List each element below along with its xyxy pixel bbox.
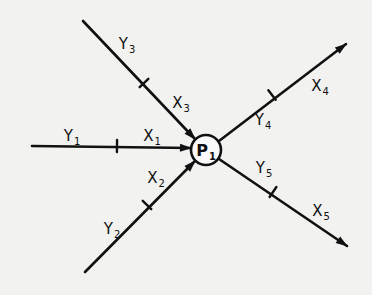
label-main: Y xyxy=(256,159,265,177)
label-subscript: 3 xyxy=(129,44,135,55)
label-subscript: 5 xyxy=(266,168,272,179)
label-subscript: 5 xyxy=(323,211,329,222)
edge-in xyxy=(32,140,192,152)
label-y3: Y3 xyxy=(119,37,136,52)
label-x5: X5 xyxy=(312,204,330,219)
node-label-p1: P1 xyxy=(196,143,216,159)
edge-line xyxy=(219,159,347,246)
label-main: X xyxy=(143,127,153,145)
flow-diagram: P1 Y1X1Y2X2Y3X3Y4X4Y5X5 xyxy=(0,0,372,295)
label-y1: Y1 xyxy=(64,129,81,144)
edge-line xyxy=(83,21,195,139)
label-main: Y xyxy=(119,35,128,53)
label-x1: X1 xyxy=(143,129,161,144)
edge-in xyxy=(83,21,196,140)
node-label-main: P xyxy=(196,141,208,160)
label-x3: X3 xyxy=(172,96,190,111)
label-y5: Y5 xyxy=(256,161,273,176)
label-subscript: 4 xyxy=(322,86,328,97)
label-y4: Y4 xyxy=(255,113,272,128)
label-main: X xyxy=(312,202,322,220)
edges-layer xyxy=(32,21,348,272)
tick-mark xyxy=(268,90,275,100)
label-main: X xyxy=(147,169,157,187)
edge-in xyxy=(85,160,196,272)
label-y2: Y2 xyxy=(104,222,121,237)
node-label-sub: 1 xyxy=(209,151,216,162)
label-x4: X4 xyxy=(311,79,329,94)
label-subscript: 2 xyxy=(114,229,120,240)
label-subscript: 4 xyxy=(265,120,271,131)
label-main: X xyxy=(172,94,182,112)
diagram-canvas xyxy=(0,0,372,295)
label-subscript: 2 xyxy=(158,178,164,189)
edge-line xyxy=(85,161,195,272)
label-main: Y xyxy=(255,111,264,129)
label-subscript: 1 xyxy=(154,136,160,147)
label-x2: X2 xyxy=(147,171,165,186)
label-main: X xyxy=(311,77,321,95)
label-subscript: 1 xyxy=(74,136,80,147)
edge-line xyxy=(32,146,191,148)
label-main: Y xyxy=(64,127,73,145)
label-subscript: 3 xyxy=(183,103,189,114)
label-main: Y xyxy=(104,220,113,238)
